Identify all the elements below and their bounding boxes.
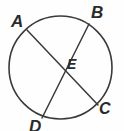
chord-bd-line bbox=[42, 24, 89, 118]
vertex-label-a: A bbox=[11, 13, 23, 30]
vertex-label-b: B bbox=[91, 4, 103, 21]
geometry-figure: A B E C D bbox=[0, 0, 124, 131]
vertex-label-e: E bbox=[67, 57, 76, 71]
chord-ac-line bbox=[27, 30, 98, 105]
vertex-label-c: C bbox=[99, 101, 111, 117]
vertex-label-d: D bbox=[29, 118, 41, 131]
